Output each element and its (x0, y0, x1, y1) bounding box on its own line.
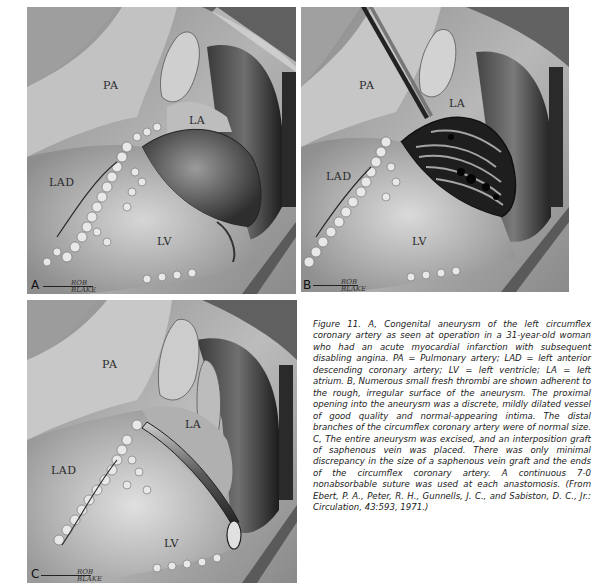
label-la: LA (185, 418, 201, 431)
artist-signature: ROB BLAKE (341, 279, 381, 292)
label-lad: LAD (326, 170, 352, 183)
illustration-panel-c: PA LA LAD LV C ROB BLAKE (27, 300, 297, 583)
heart-illustration-c (27, 300, 297, 583)
label-lv: LV (164, 537, 179, 550)
illustration-panel-b: PA LA LAD LV B ROB BLAKE (301, 7, 569, 292)
panel-letter-c: C (31, 567, 39, 581)
panel-letter-a: A (31, 278, 39, 292)
label-la: LA (449, 97, 465, 110)
artist-signature: ROB BLAKE (77, 569, 117, 583)
label-lv: LV (157, 235, 172, 248)
label-pa: PA (102, 358, 117, 371)
label-pa: PA (103, 79, 118, 92)
panel-letter-b: B (303, 278, 311, 292)
heart-illustration-a (27, 7, 296, 294)
heart-illustration-b (301, 7, 569, 292)
figure-caption: Figure 11. A, Congenital aneurysm of the… (313, 319, 591, 514)
illustration-panel-a: PA LA LAD LV A ROB BLAKE (27, 7, 296, 294)
label-lad: LAD (49, 176, 75, 189)
label-la: LA (189, 114, 205, 127)
artist-signature: ROB BLAKE (71, 280, 111, 294)
label-pa: PA (359, 79, 374, 92)
label-lv: LV (412, 235, 427, 248)
label-lad: LAD (51, 464, 77, 477)
